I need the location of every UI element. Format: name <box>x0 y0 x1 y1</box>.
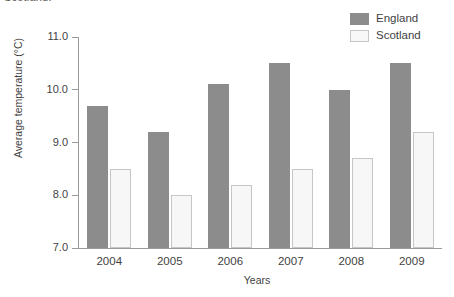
bar-scotland-2009 <box>413 132 434 248</box>
y-tick-mark <box>72 195 79 196</box>
x-tick-label: 2009 <box>382 255 442 267</box>
bar-group <box>269 37 313 248</box>
x-tick-label: 2004 <box>79 255 139 267</box>
bar-scotland-2008 <box>352 158 373 248</box>
bar-chart: Average temperature (°C) Years 7.08.09.0… <box>0 0 454 297</box>
bar-england-2005 <box>148 132 169 248</box>
y-tick-mark <box>72 89 79 90</box>
bar-group <box>390 37 434 248</box>
y-tick-label: 10.0 <box>26 84 68 95</box>
y-tick-label: 8.0 <box>26 189 68 200</box>
bar-scotland-2006 <box>231 185 252 248</box>
y-tick-mark <box>72 142 79 143</box>
y-tick-mark <box>72 37 79 38</box>
x-axis-line <box>78 248 442 249</box>
bar-england-2007 <box>269 63 290 248</box>
bar-england-2004 <box>87 106 108 248</box>
y-tick-mark <box>72 248 79 249</box>
bar-england-2009 <box>390 63 411 248</box>
y-axis-label: Average temperature (°C) <box>12 18 24 178</box>
y-tick-label: 11.0 <box>26 31 68 42</box>
x-axis-label: Years <box>72 274 442 286</box>
plot-area <box>79 37 442 248</box>
bar-group <box>329 37 373 248</box>
y-tick-label: 9.0 <box>26 137 68 148</box>
bar-group <box>208 37 252 248</box>
bar-scotland-2005 <box>171 195 192 248</box>
x-tick-label: 2008 <box>321 255 381 267</box>
y-tick-label: 7.0 <box>26 242 68 253</box>
bar-group <box>87 37 131 248</box>
bar-scotland-2007 <box>292 169 313 248</box>
bar-scotland-2004 <box>110 169 131 248</box>
x-tick-label: 2006 <box>200 255 260 267</box>
x-tick-label: 2005 <box>140 255 200 267</box>
bar-england-2006 <box>208 84 229 248</box>
bar-group <box>148 37 192 248</box>
bar-england-2008 <box>329 90 350 248</box>
x-tick-label: 2007 <box>261 255 321 267</box>
